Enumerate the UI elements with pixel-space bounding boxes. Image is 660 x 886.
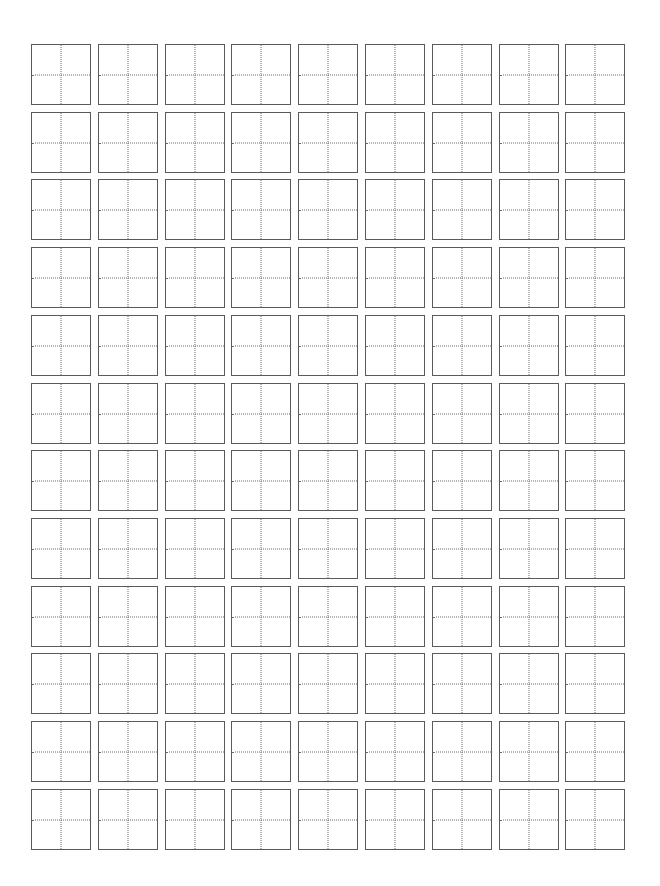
writing-cell <box>565 789 625 850</box>
writing-cell <box>565 383 625 444</box>
writing-cell <box>499 383 559 444</box>
writing-cell <box>298 315 358 376</box>
horizontal-guide-line <box>32 209 90 210</box>
horizontal-guide-line <box>166 751 224 752</box>
horizontal-guide-line <box>99 819 157 820</box>
horizontal-guide-line <box>433 413 491 414</box>
horizontal-guide-line <box>366 751 424 752</box>
horizontal-guide-line <box>566 548 624 549</box>
horizontal-guide-line <box>366 819 424 820</box>
horizontal-guide-line <box>299 548 357 549</box>
writing-cell <box>231 44 291 105</box>
horizontal-guide-line <box>32 616 90 617</box>
horizontal-guide-line <box>32 413 90 414</box>
writing-cell <box>565 112 625 173</box>
writing-cell <box>298 44 358 105</box>
horizontal-guide-line <box>99 74 157 75</box>
writing-cell <box>298 789 358 850</box>
horizontal-guide-line <box>99 142 157 143</box>
writing-cell <box>231 653 291 714</box>
writing-cell <box>499 112 559 173</box>
horizontal-guide-line <box>232 616 290 617</box>
horizontal-guide-line <box>166 209 224 210</box>
horizontal-guide-line <box>232 345 290 346</box>
horizontal-guide-line <box>32 142 90 143</box>
writing-cell <box>31 383 91 444</box>
horizontal-guide-line <box>32 819 90 820</box>
horizontal-guide-line <box>32 683 90 684</box>
writing-cell <box>565 653 625 714</box>
horizontal-guide-line <box>500 209 558 210</box>
horizontal-guide-line <box>433 277 491 278</box>
writing-cell <box>565 179 625 240</box>
horizontal-guide-line <box>500 142 558 143</box>
horizontal-guide-line <box>166 142 224 143</box>
writing-cell <box>365 179 425 240</box>
horizontal-guide-line <box>433 345 491 346</box>
writing-cell <box>432 179 492 240</box>
writing-cell <box>98 653 158 714</box>
horizontal-guide-line <box>566 480 624 481</box>
writing-cell <box>98 789 158 850</box>
horizontal-guide-line <box>166 480 224 481</box>
writing-cell <box>499 315 559 376</box>
horizontal-guide-line <box>32 548 90 549</box>
horizontal-guide-line <box>32 480 90 481</box>
horizontal-guide-line <box>299 142 357 143</box>
writing-cell <box>98 518 158 579</box>
writing-cell <box>231 586 291 647</box>
writing-cell <box>31 44 91 105</box>
horizontal-guide-line <box>433 751 491 752</box>
writing-cell <box>165 179 225 240</box>
writing-cell <box>565 247 625 308</box>
horizontal-guide-line <box>366 345 424 346</box>
writing-cell <box>165 112 225 173</box>
writing-cell <box>98 315 158 376</box>
writing-cell <box>98 450 158 511</box>
horizontal-guide-line <box>99 751 157 752</box>
writing-cell <box>432 315 492 376</box>
horizontal-guide-line <box>366 413 424 414</box>
horizontal-guide-line <box>366 616 424 617</box>
horizontal-guide-line <box>166 74 224 75</box>
horizontal-guide-line <box>433 142 491 143</box>
horizontal-guide-line <box>166 413 224 414</box>
writing-cell <box>499 450 559 511</box>
horizontal-guide-line <box>99 413 157 414</box>
writing-cell <box>432 450 492 511</box>
horizontal-guide-line <box>500 74 558 75</box>
writing-cell <box>565 450 625 511</box>
horizontal-guide-line <box>99 209 157 210</box>
writing-cell <box>298 112 358 173</box>
writing-cell <box>98 721 158 782</box>
horizontal-guide-line <box>166 345 224 346</box>
horizontal-guide-line <box>366 209 424 210</box>
writing-cell <box>31 653 91 714</box>
horizontal-guide-line <box>232 819 290 820</box>
writing-cell <box>565 586 625 647</box>
writing-cell <box>165 586 225 647</box>
writing-cell <box>98 586 158 647</box>
writing-cell <box>499 653 559 714</box>
horizontal-guide-line <box>299 277 357 278</box>
writing-cell <box>165 247 225 308</box>
horizontal-guide-line <box>99 345 157 346</box>
horizontal-guide-line <box>299 74 357 75</box>
writing-cell <box>298 383 358 444</box>
writing-cell <box>565 721 625 782</box>
writing-cell <box>98 179 158 240</box>
writing-cell <box>565 315 625 376</box>
writing-cell <box>432 586 492 647</box>
horizontal-guide-line <box>500 480 558 481</box>
horizontal-guide-line <box>232 74 290 75</box>
writing-cell <box>231 315 291 376</box>
horizontal-guide-line <box>99 616 157 617</box>
horizontal-guide-line <box>500 413 558 414</box>
writing-cell <box>165 383 225 444</box>
writing-cell <box>432 721 492 782</box>
writing-cell <box>31 450 91 511</box>
writing-cell <box>365 586 425 647</box>
writing-cell <box>432 112 492 173</box>
horizontal-guide-line <box>566 819 624 820</box>
horizontal-guide-line <box>299 345 357 346</box>
